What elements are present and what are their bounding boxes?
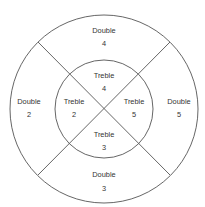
region-double-bottom: Double 3	[92, 170, 115, 193]
region-label: Double	[92, 26, 115, 35]
region-value: 4	[102, 39, 106, 48]
region-double-left: Double 2	[17, 97, 40, 119]
region-value: 5	[177, 110, 181, 119]
region-label: Treble	[94, 130, 115, 139]
region-value: 5	[132, 110, 136, 119]
region-double-top: Double 4	[92, 26, 115, 48]
region-treble-top: Treble 4	[94, 71, 115, 93]
region-label: Treble	[94, 71, 115, 80]
region-value: 3	[102, 143, 106, 152]
region-label: Double	[92, 170, 115, 179]
region-value: 2	[72, 110, 76, 119]
region-label: Treble	[64, 97, 85, 106]
region-label: Double	[17, 97, 40, 106]
region-label: Double	[167, 97, 190, 106]
region-label: Treble	[124, 97, 145, 106]
region-treble-right: Treble 5	[124, 97, 145, 119]
region-value: 3	[102, 184, 106, 193]
region-value: 4	[102, 84, 106, 93]
region-treble-bottom: Treble 3	[94, 130, 115, 152]
dartboard-diagram: Double 4 Double 2 Double 5 Double 3 Treb…	[0, 0, 205, 207]
region-value: 2	[27, 110, 31, 119]
region-double-right: Double 5	[167, 97, 190, 119]
region-treble-left: Treble 2	[64, 97, 85, 119]
